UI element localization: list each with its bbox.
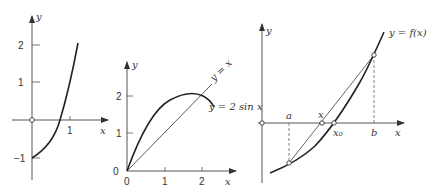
point-x xyxy=(320,121,324,125)
x-tick-2: 2 xyxy=(199,176,205,187)
point-fa xyxy=(287,161,291,165)
curve xyxy=(32,43,78,158)
x-tick-1: 1 xyxy=(162,176,168,187)
y-tick-2: 2 xyxy=(18,40,24,51)
panel-2: 0 1 2 0 1 2 x y y = x y = 2 sin x xyxy=(113,57,263,187)
sine-curve xyxy=(127,94,214,171)
x-axis-label: x xyxy=(100,125,106,136)
y-tick-neg1: −1 xyxy=(14,153,26,164)
curve-f xyxy=(270,32,384,173)
y-axis-label: y xyxy=(35,11,42,22)
label-a: a xyxy=(286,110,292,121)
y-tick-1: 1 xyxy=(18,77,24,88)
y-tick-0: 0 xyxy=(113,166,119,177)
y-axis-label: y xyxy=(131,59,138,70)
x-axis-label: x xyxy=(225,176,231,187)
diagram-canvas: 2 1 −1 1 x y 0 1 2 0 1 2 x y y = x y = 2… xyxy=(0,0,435,192)
point-x0 xyxy=(332,121,336,125)
secant-line xyxy=(289,55,374,163)
y-tick-2: 2 xyxy=(116,91,122,102)
point-fb xyxy=(372,53,376,57)
curve-label: y = 2 sin x xyxy=(208,101,263,112)
x-tick-1: 1 xyxy=(67,125,73,136)
x-tick-0: 0 xyxy=(124,176,130,187)
line-label: y = x xyxy=(207,57,234,84)
panel-3: y x a x x₀ b y = f(x) xyxy=(258,24,427,183)
y-axis-label: y xyxy=(265,25,272,36)
x-axis-label: x xyxy=(395,127,401,138)
open-point xyxy=(30,118,35,123)
label-x: x xyxy=(318,109,324,120)
label-x0: x₀ xyxy=(333,127,343,138)
curve-label: y = f(x) xyxy=(388,27,427,38)
panel-1: 2 1 −1 1 x y xyxy=(12,11,108,180)
label-b: b xyxy=(371,127,377,138)
line-y-equals-x xyxy=(127,84,212,171)
y-tick-1: 1 xyxy=(116,128,122,139)
